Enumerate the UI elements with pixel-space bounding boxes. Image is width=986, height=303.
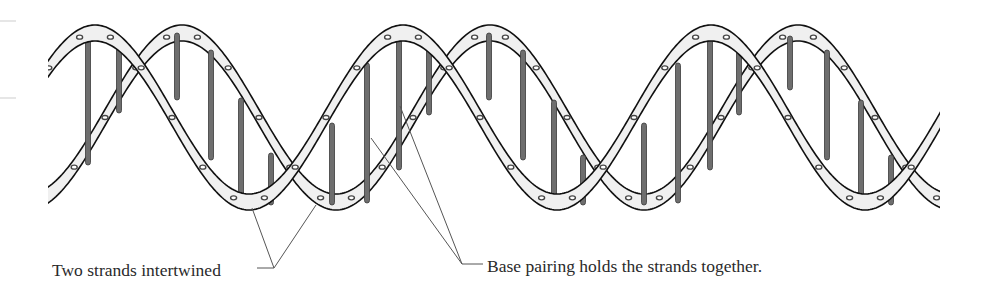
base-pair-rung xyxy=(676,63,681,203)
leader-line xyxy=(274,205,316,268)
base-pair-rung xyxy=(552,100,557,197)
base-pair-rung xyxy=(117,47,122,113)
strand-a-ribbon xyxy=(28,25,960,210)
base-pair-rung xyxy=(708,30,713,170)
base-pair-rung xyxy=(209,50,214,160)
base-pair-rung xyxy=(365,63,370,203)
base-pair-rung xyxy=(239,98,244,197)
label-two-strands: Two strands intertwined xyxy=(52,262,221,280)
base-pair-rung xyxy=(788,36,793,90)
base-pair-rung xyxy=(175,33,180,100)
base-pair-rung xyxy=(859,100,864,197)
base-pair-rung xyxy=(487,33,492,100)
base-pair-rung xyxy=(825,50,830,160)
base-pair-rung xyxy=(330,123,335,205)
leader-line xyxy=(400,106,462,264)
label-base-pairing: Base pairing holds the strands together. xyxy=(487,258,762,276)
base-pair-rung xyxy=(642,123,647,205)
base-pair-rung xyxy=(397,30,402,170)
base-pair-rung xyxy=(521,50,526,160)
leader-line xyxy=(371,138,462,264)
base-pair-rung xyxy=(86,30,91,165)
leader-line xyxy=(252,208,274,268)
